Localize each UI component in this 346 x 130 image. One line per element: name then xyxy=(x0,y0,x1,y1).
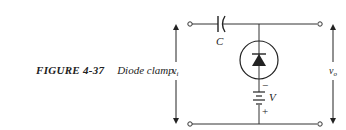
output-terminals xyxy=(318,22,322,126)
output-terminal-bottom xyxy=(318,122,322,126)
input-voltage-label: vi xyxy=(172,65,178,78)
battery-label: V xyxy=(269,91,277,103)
battery-symbol xyxy=(253,92,265,104)
battery-minus: − xyxy=(262,79,268,91)
output-voltage-label: vo xyxy=(329,65,337,78)
input-terminal-bottom xyxy=(188,122,192,126)
input-terminals xyxy=(188,22,192,126)
output-terminal-top xyxy=(318,22,322,26)
battery-plus: + xyxy=(262,105,268,117)
capacitor-label: C xyxy=(216,35,224,47)
input-terminal-top xyxy=(188,22,192,26)
diode-clamp-schematic: C − V + vi vo xyxy=(0,0,346,130)
